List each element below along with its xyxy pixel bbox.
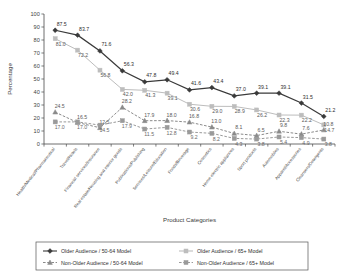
- data-point-label: 8.1: [235, 124, 242, 130]
- data-point-label: 13.0: [211, 118, 221, 124]
- data-point-marker: [187, 88, 192, 93]
- y-tick-label: 80: [34, 37, 40, 43]
- y-axis-title: Percentage: [6, 63, 13, 95]
- data-point-label: 39.1: [258, 84, 268, 90]
- data-point-label: 22.2: [302, 117, 312, 123]
- data-point-label: 18.0: [167, 112, 177, 118]
- data-point-label: 17.0: [55, 124, 65, 130]
- data-point-label: 87.5: [57, 21, 67, 27]
- data-point-label: 4.3: [235, 141, 242, 147]
- data-point-label: 83.7: [79, 26, 89, 32]
- y-tick-label: 60: [34, 63, 40, 69]
- x-tick-label: Automobiles: [261, 146, 280, 169]
- x-tick-label: Real estate/Housing and interior goods: [73, 146, 124, 209]
- data-point-label: 6.5: [258, 127, 265, 133]
- x-axis-title: Product Categories: [163, 216, 216, 223]
- y-tick-label: 0: [37, 141, 40, 147]
- y-tick-label: 40: [34, 89, 40, 95]
- legend-label: Older Audience / 65+ Model: [197, 248, 263, 254]
- data-point-label: 41.6: [191, 80, 201, 86]
- data-point-label: 26.2: [257, 112, 267, 118]
- data-point-label: 39.1: [280, 84, 290, 90]
- data-point-label: 16.8: [189, 113, 199, 119]
- data-point-marker: [53, 110, 58, 114]
- data-point-label: 56.8: [100, 72, 110, 78]
- y-tick-label: 90: [34, 24, 40, 30]
- x-tick-label: Travel/Hotels: [59, 146, 79, 170]
- data-point-label: 56.3: [124, 61, 134, 67]
- data-point-label: 10.8: [323, 121, 333, 127]
- data-point-label: 9.2: [190, 134, 197, 140]
- data-point-label: 81.0: [56, 41, 66, 47]
- x-tick-label: Sport products: [236, 146, 258, 172]
- line-chart: 0102030405060708090100PercentageHealth/M…: [0, 0, 343, 280]
- data-point-label: 9.8: [280, 122, 287, 128]
- data-point-label: 49.4: [169, 70, 179, 76]
- data-point-marker: [120, 105, 125, 109]
- data-point-marker: [184, 249, 188, 253]
- data-point-label: 3.8: [325, 141, 332, 147]
- chart-container: 0102030405060708090100PercentageHealth/M…: [0, 0, 343, 280]
- data-point-label: 41.3: [145, 92, 155, 98]
- data-point-label: 16.5: [77, 114, 87, 120]
- data-point-marker: [232, 94, 237, 99]
- data-point-label: 14.5: [99, 127, 109, 133]
- data-point-label: 30.6: [190, 106, 200, 112]
- data-point-label: 12.8: [167, 130, 177, 136]
- data-point-label: 4.9: [302, 140, 309, 146]
- data-point-label: 72.2: [78, 52, 88, 58]
- data-point-label: 5.4: [280, 139, 287, 145]
- data-point-label: 17.0: [77, 124, 87, 130]
- legend-label: Older Audience / 50-64 Model: [61, 248, 131, 254]
- legend-label: Non-Older Audience / 65+ Model: [197, 260, 274, 266]
- x-tick-label: Cosmetics: [196, 146, 213, 166]
- data-point-label: 31.5: [303, 94, 313, 100]
- y-tick-label: 20: [34, 115, 40, 121]
- data-point-label: 28.2: [122, 98, 132, 104]
- data-point-label: 28.9: [235, 108, 245, 114]
- x-tick-label: Health/Medical/Pharmaceutical: [15, 147, 56, 197]
- data-point-label: 43.4: [213, 78, 223, 84]
- y-tick-label: 10: [34, 128, 40, 134]
- y-tick-label: 50: [34, 76, 40, 82]
- data-point-marker: [277, 91, 282, 96]
- legend: Older Audience / 50-64 ModelOlder Audien…: [36, 242, 308, 270]
- data-point-marker: [53, 28, 58, 33]
- data-point-label: 7.6: [302, 125, 309, 131]
- data-point-label: 47.8: [146, 72, 156, 78]
- data-point-label: 8.2: [213, 136, 220, 142]
- y-tick-label: 30: [34, 102, 40, 108]
- data-point-label: 21.2: [325, 107, 335, 113]
- data-point-label: 71.6: [101, 41, 111, 47]
- y-tick-label: 70: [34, 50, 40, 56]
- data-point-label: 37.0: [236, 86, 246, 92]
- x-tick-label: Foods/Beverage: [167, 146, 191, 175]
- data-point-marker: [254, 91, 259, 96]
- data-point-marker: [165, 77, 170, 82]
- data-point-label: 17.9: [144, 112, 154, 118]
- data-point-marker: [277, 129, 282, 133]
- data-point-marker: [142, 79, 147, 84]
- data-point-marker: [184, 261, 188, 265]
- legend-border: [36, 242, 308, 270]
- data-point-label: 11.5: [144, 131, 154, 137]
- data-point-label: 3.8: [258, 141, 265, 147]
- data-point-label: 39.1: [168, 95, 178, 101]
- series-1: 87.583.771.656.347.849.441.643.437.039.1…: [53, 21, 336, 119]
- legend-label: Non-Older Audience / 50-64 Model: [61, 260, 143, 266]
- data-point-label: 17.9: [122, 123, 132, 129]
- y-tick-label: 100: [30, 11, 39, 17]
- data-point-marker: [209, 85, 214, 90]
- data-point-label: 24.5: [55, 103, 65, 109]
- data-point-label: 42.0: [123, 91, 133, 97]
- data-point-label: 29.0: [212, 108, 222, 114]
